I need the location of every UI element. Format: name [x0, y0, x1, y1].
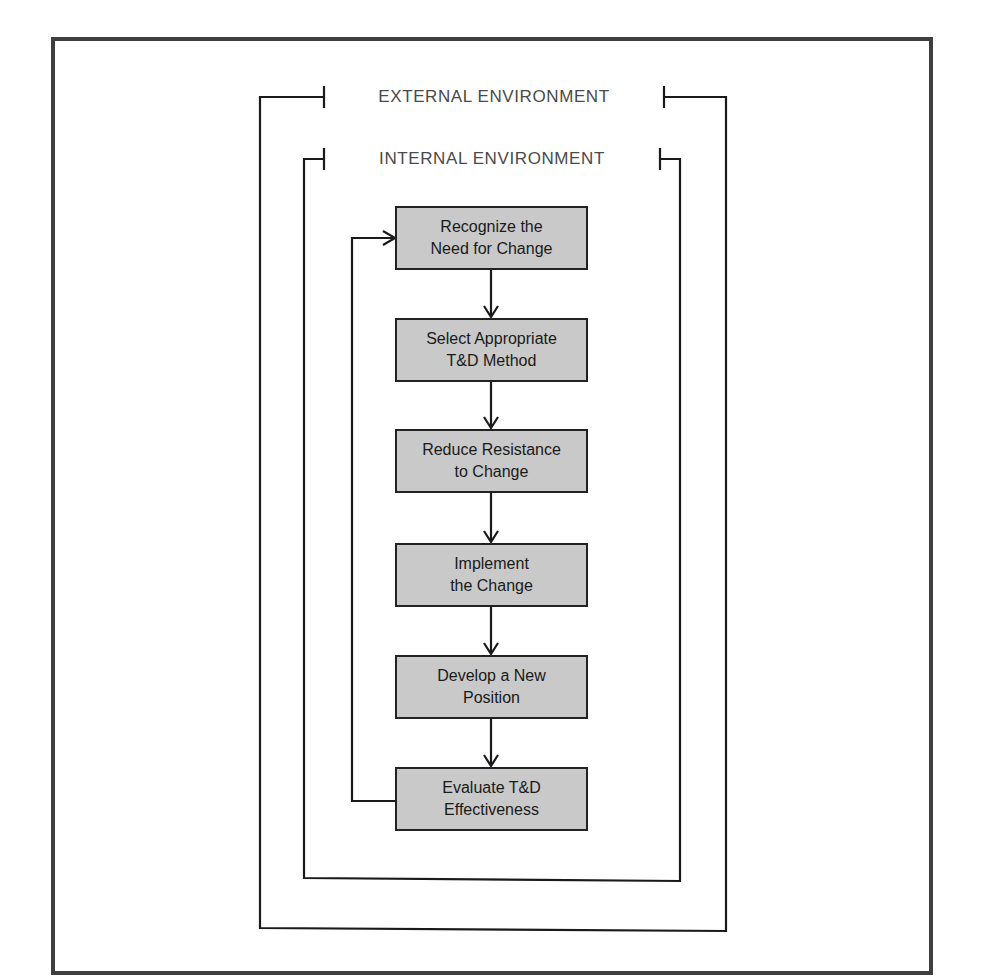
step-text: Effectiveness: [442, 799, 540, 821]
step-text: Position: [437, 687, 546, 709]
step-text: T&D Method: [426, 350, 557, 372]
step-text: to Change: [422, 461, 561, 483]
step-text: Recognize the: [431, 216, 553, 238]
step-text: the Change: [450, 575, 533, 597]
step-text: Develop a New: [437, 665, 546, 687]
external-environment-label: EXTERNAL ENVIRONMENT: [378, 87, 609, 107]
step-select-method: Select AppropriateT&D Method: [395, 318, 588, 382]
internal-environment-label: INTERNAL ENVIRONMENT: [379, 149, 605, 169]
step-text: Evaluate T&D: [442, 777, 540, 799]
step-develop-position: Develop a NewPosition: [395, 655, 588, 719]
step-implement-change: Implementthe Change: [395, 543, 588, 607]
step-text: Need for Change: [431, 238, 553, 260]
step-evaluate-effectiveness: Evaluate T&DEffectiveness: [395, 767, 588, 831]
step-text: Reduce Resistance: [422, 439, 561, 461]
step-reduce-resistance: Reduce Resistanceto Change: [395, 429, 588, 493]
step-text: Implement: [450, 553, 533, 575]
feedback-loop-arrow: [352, 231, 395, 801]
step-recognize-need: Recognize theNeed for Change: [395, 206, 588, 270]
step-text: Select Appropriate: [426, 328, 557, 350]
